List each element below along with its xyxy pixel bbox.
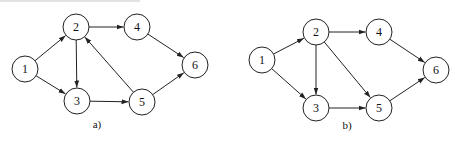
edge-b-2-to-5 xyxy=(324,42,370,98)
node-label: 1 xyxy=(259,53,265,67)
node-b-6: 6 xyxy=(423,57,449,83)
node-label: 6 xyxy=(433,63,439,77)
node-b-2: 2 xyxy=(303,19,329,45)
node-label: 3 xyxy=(74,94,80,108)
edge-b-1-to-3 xyxy=(272,69,306,99)
node-label: 1 xyxy=(22,62,28,76)
edge-a-1-to-2 xyxy=(35,36,66,61)
node-a-6: 6 xyxy=(182,52,208,78)
node-label: 4 xyxy=(134,20,140,34)
edge-b-5-to-6 xyxy=(390,78,425,101)
node-a-3: 3 xyxy=(64,88,90,114)
node-b-3: 3 xyxy=(303,95,329,121)
caption-b: b) xyxy=(342,119,352,132)
node-a-5: 5 xyxy=(129,89,155,115)
edge-a-1-to-3 xyxy=(36,76,65,94)
edge-a-5-to-2 xyxy=(85,37,133,92)
edge-b-4-to-6 xyxy=(390,39,425,62)
nodes-layer: 123456123456 xyxy=(12,14,449,121)
node-label: 5 xyxy=(139,95,145,109)
node-a-4: 4 xyxy=(124,14,150,40)
node-label: 2 xyxy=(313,25,319,39)
node-a-1: 1 xyxy=(12,56,38,82)
node-label: 2 xyxy=(73,20,79,34)
node-label: 4 xyxy=(376,25,382,39)
node-label: 5 xyxy=(376,101,382,115)
edge-a-2-to-3 xyxy=(76,40,77,88)
edge-b-1-to-2 xyxy=(274,38,305,54)
caption-a: a) xyxy=(93,118,102,131)
graph-diagrams: 123456123456 a)b) xyxy=(0,0,459,145)
edge-a-5-to-6 xyxy=(153,73,184,95)
node-b-1: 1 xyxy=(249,47,275,73)
edge-a-3-to-5 xyxy=(90,101,129,102)
node-b-5: 5 xyxy=(366,95,392,121)
edges-layer xyxy=(35,27,425,108)
node-a-2: 2 xyxy=(63,14,89,40)
node-label: 6 xyxy=(192,58,198,72)
node-label: 3 xyxy=(313,101,319,115)
edge-a-4-to-6 xyxy=(148,34,184,58)
node-b-4: 4 xyxy=(366,19,392,45)
